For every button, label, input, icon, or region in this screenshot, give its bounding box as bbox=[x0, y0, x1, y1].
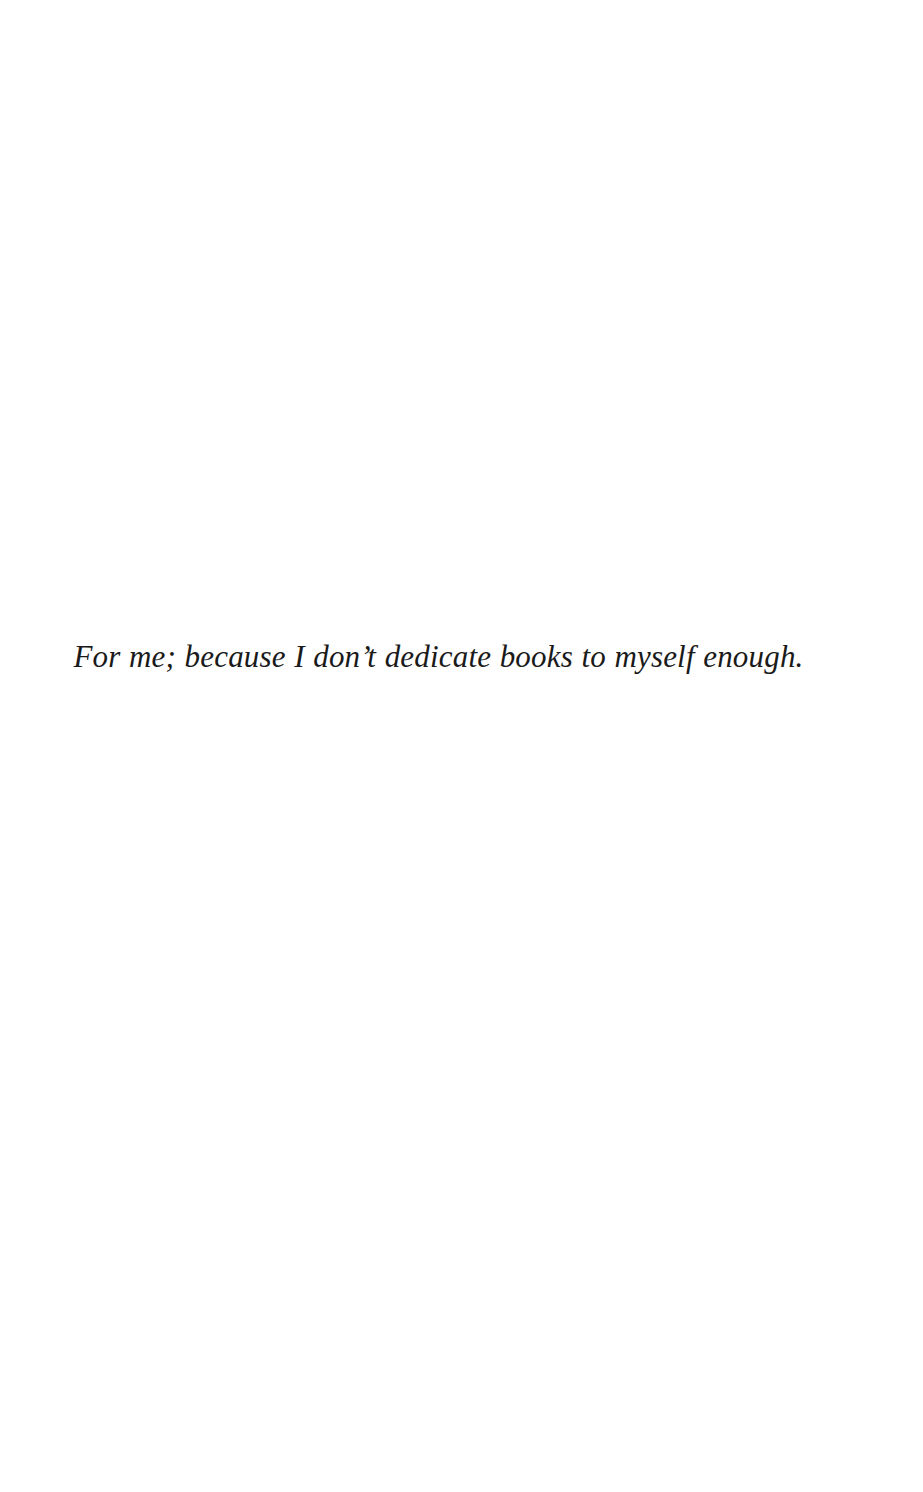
dedication-text: For me; because I don’t dedicate books t… bbox=[73, 635, 803, 679]
dedication-block: For me; because I don’t dedicate books t… bbox=[0, 604, 923, 710]
book-page: For me; because I don’t dedicate books t… bbox=[0, 0, 923, 1492]
